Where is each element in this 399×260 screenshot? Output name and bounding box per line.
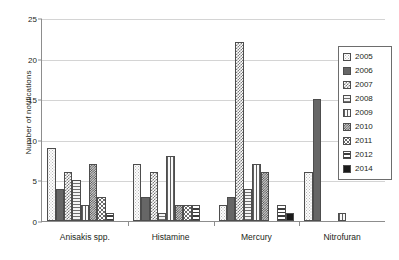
bar-slot bbox=[114, 19, 122, 221]
legend-item-2012[interactable]: 2012 bbox=[343, 148, 388, 162]
legend-swatch-icon bbox=[343, 53, 351, 61]
bar-2008[interactable] bbox=[72, 180, 80, 221]
bar-2009[interactable] bbox=[81, 205, 89, 221]
bar-2012[interactable] bbox=[192, 205, 200, 221]
bar-2005[interactable] bbox=[47, 148, 55, 221]
legend-swatch-icon bbox=[343, 81, 351, 89]
bar-slot bbox=[72, 19, 80, 221]
legend-label: 2011 bbox=[355, 137, 372, 145]
bar-slot bbox=[304, 19, 312, 221]
legend-item-2007[interactable]: 2007 bbox=[343, 78, 388, 92]
bar-groups: Anisakis spp.HistamineMercuryNitrofuran bbox=[42, 19, 385, 221]
bar-2011[interactable] bbox=[183, 205, 191, 221]
bar-slot bbox=[244, 19, 252, 221]
bar-slot bbox=[106, 19, 114, 221]
bar-chart: Number of notifications 0510152025 Anisa… bbox=[0, 0, 399, 260]
y-axis-title: Number of notifications bbox=[24, 23, 33, 203]
bar-slot bbox=[277, 19, 285, 221]
y-tick-mark bbox=[38, 222, 42, 223]
y-tick-label: 5 bbox=[33, 177, 37, 186]
legend-swatch-icon bbox=[343, 109, 351, 117]
x-axis-group-separator bbox=[299, 221, 300, 226]
bar-slot bbox=[235, 19, 243, 221]
bar-2010[interactable] bbox=[261, 172, 269, 221]
bar-slot bbox=[200, 19, 208, 221]
legend-label: 2012 bbox=[355, 151, 373, 159]
bar-slot bbox=[330, 19, 338, 221]
bar-2007[interactable] bbox=[235, 42, 243, 221]
bar-slot bbox=[313, 19, 321, 221]
bar-2006[interactable] bbox=[313, 99, 321, 221]
legend-swatch-icon bbox=[343, 165, 351, 173]
bar-slot bbox=[261, 19, 269, 221]
bar-2006[interactable] bbox=[141, 197, 149, 221]
legend-label: 2007 bbox=[355, 81, 373, 89]
bar-slot bbox=[227, 19, 235, 221]
legend-item-2010[interactable]: 2010 bbox=[343, 120, 388, 134]
y-tick-label: 20 bbox=[28, 55, 37, 64]
y-tick-label: 10 bbox=[28, 136, 37, 145]
x-axis-group-separator bbox=[128, 221, 129, 226]
bar-2007[interactable] bbox=[150, 172, 158, 221]
bar-slot bbox=[56, 19, 64, 221]
bar-slot bbox=[97, 19, 105, 221]
bar-slot bbox=[47, 19, 55, 221]
legend-swatch-icon bbox=[343, 137, 351, 145]
bar-2010[interactable] bbox=[89, 164, 97, 221]
bar-slot bbox=[158, 19, 166, 221]
x-tick-label: Anisakis spp. bbox=[60, 232, 110, 242]
bar-2012[interactable] bbox=[106, 213, 114, 221]
y-tick-label: 15 bbox=[28, 96, 37, 105]
x-tick-label: Histamine bbox=[152, 232, 190, 242]
bar-slot bbox=[133, 19, 141, 221]
bar-slot bbox=[141, 19, 149, 221]
bar-2009[interactable] bbox=[166, 156, 174, 221]
bar-slot bbox=[175, 19, 183, 221]
bar-slot bbox=[252, 19, 260, 221]
bar-slot bbox=[269, 19, 277, 221]
bar-group: Mercury bbox=[214, 19, 300, 221]
bar-slot bbox=[64, 19, 72, 221]
legend-item-2006[interactable]: 2006 bbox=[343, 64, 388, 78]
legend-label: 2005 bbox=[355, 53, 373, 61]
bar-2009[interactable] bbox=[252, 164, 260, 221]
legend-label: 2010 bbox=[355, 123, 373, 131]
legend: 200520062007200820092010201120122014 bbox=[338, 46, 392, 180]
legend-label: 2009 bbox=[355, 109, 373, 117]
bar-2007[interactable] bbox=[64, 172, 72, 221]
bar-2008[interactable] bbox=[158, 213, 166, 221]
legend-label: 2006 bbox=[355, 67, 373, 75]
legend-item-2005[interactable]: 2005 bbox=[343, 50, 388, 64]
bar-slot bbox=[286, 19, 294, 221]
legend-item-2008[interactable]: 2008 bbox=[343, 92, 388, 106]
legend-swatch-icon bbox=[343, 95, 351, 103]
legend-item-2009[interactable]: 2009 bbox=[343, 106, 388, 120]
bar-2006[interactable] bbox=[56, 189, 64, 221]
bar-2008[interactable] bbox=[244, 189, 252, 221]
bar-2010[interactable] bbox=[175, 205, 183, 221]
bar-2011[interactable] bbox=[97, 197, 105, 221]
legend-item-2014[interactable]: 2014 bbox=[343, 162, 388, 176]
bar-2005[interactable] bbox=[304, 172, 312, 221]
bar-2005[interactable] bbox=[219, 205, 227, 221]
bar-slot bbox=[183, 19, 191, 221]
bar-2009[interactable] bbox=[338, 213, 346, 221]
legend-item-2011[interactable]: 2011 bbox=[343, 134, 388, 148]
bar-2014[interactable] bbox=[286, 213, 294, 221]
legend-label: 2008 bbox=[355, 95, 373, 103]
bar-slot bbox=[89, 19, 97, 221]
legend-label: 2014 bbox=[355, 165, 373, 173]
x-tick-label: Nitrofuran bbox=[323, 232, 360, 242]
bar-2012[interactable] bbox=[277, 205, 285, 221]
bar-2005[interactable] bbox=[133, 164, 141, 221]
bar-slot bbox=[192, 19, 200, 221]
legend-swatch-icon bbox=[343, 151, 351, 159]
bar-2006[interactable] bbox=[227, 197, 235, 221]
legend-swatch-icon bbox=[343, 67, 351, 75]
bar-slot bbox=[219, 19, 227, 221]
bar-group: Histamine bbox=[128, 19, 214, 221]
bar-slot bbox=[81, 19, 89, 221]
x-tick-label: Mercury bbox=[241, 232, 272, 242]
y-tick-label: 25 bbox=[28, 15, 37, 24]
bar-group: Anisakis spp. bbox=[42, 19, 128, 221]
